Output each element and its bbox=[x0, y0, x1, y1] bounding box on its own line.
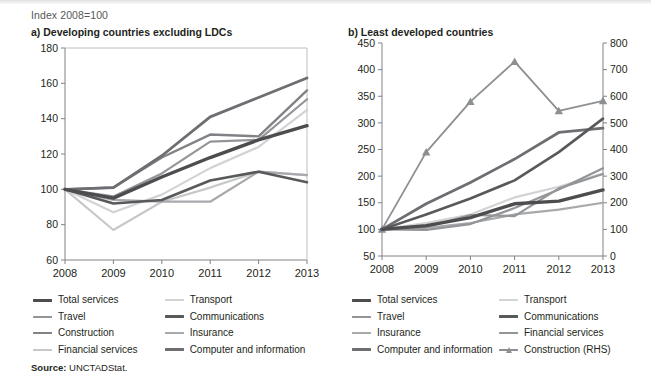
svg-text:200: 200 bbox=[357, 170, 375, 182]
svg-text:400: 400 bbox=[610, 143, 628, 155]
legend-label-transport: Transport bbox=[190, 294, 232, 306]
svg-text:2013: 2013 bbox=[591, 263, 615, 275]
legend-item-total_services[interactable]: Total services bbox=[33, 294, 165, 306]
legend-label-insurance: Insurance bbox=[377, 327, 421, 339]
source-value: UNCTADStat. bbox=[69, 362, 127, 373]
legend-swatch-travel-icon bbox=[352, 312, 371, 321]
legend-row: TravelCommunications bbox=[352, 309, 648, 326]
legend-label-construction_rhs: Construction (RHS) bbox=[524, 344, 611, 356]
svg-text:180: 180 bbox=[40, 42, 58, 54]
legend-label-travel: Travel bbox=[377, 311, 404, 323]
svg-text:2011: 2011 bbox=[503, 263, 527, 275]
legend-row: Total servicesTransport bbox=[33, 292, 323, 309]
svg-text:100: 100 bbox=[610, 223, 628, 235]
svg-text:400: 400 bbox=[357, 63, 375, 75]
legend-label-travel: Travel bbox=[58, 311, 85, 323]
legend-row: Total servicesTransport bbox=[352, 292, 648, 309]
legend-label-insurance: Insurance bbox=[190, 327, 234, 339]
legend-swatch-insurance-icon bbox=[352, 329, 371, 338]
legend-swatch-computer_and_information-icon bbox=[352, 345, 371, 354]
legend-swatch-transport-icon bbox=[165, 296, 184, 305]
legend-swatch-travel-icon bbox=[33, 312, 52, 321]
legend-item-construction_rhs[interactable]: Construction (RHS) bbox=[499, 344, 648, 356]
legend-row: TravelCommunications bbox=[33, 309, 323, 326]
legend-label-transport: Transport bbox=[524, 294, 566, 306]
svg-text:350: 350 bbox=[357, 90, 375, 102]
legend-swatch-total_services-icon bbox=[33, 296, 52, 305]
panel-b-legend: Total servicesTransportTravelCommunicati… bbox=[352, 292, 648, 358]
svg-text:200: 200 bbox=[610, 196, 628, 208]
svg-text:60: 60 bbox=[46, 254, 58, 266]
svg-text:50: 50 bbox=[363, 250, 375, 262]
svg-text:2012: 2012 bbox=[547, 263, 571, 275]
legend-row: ConstructionInsurance bbox=[33, 325, 323, 342]
svg-text:2010: 2010 bbox=[150, 267, 174, 279]
svg-text:800: 800 bbox=[610, 37, 628, 49]
legend-label-communications: Communications bbox=[524, 311, 598, 323]
svg-text:0: 0 bbox=[610, 250, 616, 262]
legend-item-communications[interactable]: Communications bbox=[499, 311, 648, 323]
legend-item-computer_and_information[interactable]: Computer and information bbox=[352, 344, 499, 356]
legend-swatch-financial_services-icon bbox=[33, 345, 52, 354]
panel-b-plot: 5010015020025030035040045001002003004005… bbox=[326, 0, 651, 285]
svg-text:150: 150 bbox=[357, 196, 375, 208]
legend-label-financial_services: Financial services bbox=[58, 344, 137, 356]
legend-item-computer_and_information[interactable]: Computer and information bbox=[165, 344, 323, 356]
legend-swatch-financial_services-icon bbox=[499, 329, 518, 338]
legend-item-travel[interactable]: Travel bbox=[352, 311, 499, 323]
legend-item-total_services[interactable]: Total services bbox=[352, 294, 499, 306]
legend-item-transport[interactable]: Transport bbox=[165, 294, 323, 306]
svg-text:2008: 2008 bbox=[53, 267, 77, 279]
svg-text:2009: 2009 bbox=[414, 263, 438, 275]
svg-text:100: 100 bbox=[40, 183, 58, 195]
svg-text:2010: 2010 bbox=[458, 263, 482, 275]
svg-text:120: 120 bbox=[40, 148, 58, 160]
svg-text:2012: 2012 bbox=[246, 267, 270, 279]
legend-swatch-computer_and_information-icon bbox=[165, 345, 184, 354]
legend-item-financial_services[interactable]: Financial services bbox=[499, 327, 648, 339]
svg-text:80: 80 bbox=[46, 218, 58, 230]
svg-text:100: 100 bbox=[357, 223, 375, 235]
legend-item-insurance[interactable]: Insurance bbox=[165, 327, 323, 339]
svg-text:2009: 2009 bbox=[101, 267, 125, 279]
panel-a-legend: Total servicesTransportTravelCommunicati… bbox=[33, 292, 323, 358]
legend-swatch-insurance-icon bbox=[165, 329, 184, 338]
legend-row: Computer and informationConstruction (RH… bbox=[352, 342, 648, 359]
legend-label-communications: Communications bbox=[190, 311, 264, 323]
chart-panel-b: b) Least developed countries 50100150200… bbox=[326, 0, 651, 381]
legend-item-financial_services[interactable]: Financial services bbox=[33, 344, 165, 356]
svg-text:250: 250 bbox=[357, 143, 375, 155]
source-label: Source: bbox=[31, 362, 66, 373]
svg-text:600: 600 bbox=[610, 90, 628, 102]
svg-text:140: 140 bbox=[40, 112, 58, 124]
legend-label-construction: Construction bbox=[58, 327, 114, 339]
legend-item-construction[interactable]: Construction bbox=[33, 327, 165, 339]
svg-text:2011: 2011 bbox=[198, 267, 222, 279]
legend-item-communications[interactable]: Communications bbox=[165, 311, 323, 323]
chart-panel-a: a) Developing countries excluding LDCs 6… bbox=[0, 0, 326, 381]
source-note: Source: UNCTADStat. bbox=[31, 362, 127, 373]
legend-label-financial_services: Financial services bbox=[524, 327, 603, 339]
legend-label-total_services: Total services bbox=[377, 294, 438, 306]
svg-text:160: 160 bbox=[40, 77, 58, 89]
legend-row: InsuranceFinancial services bbox=[352, 325, 648, 342]
legend-swatch-construction-icon bbox=[33, 329, 52, 338]
legend-label-computer_and_information: Computer and information bbox=[377, 344, 493, 356]
panel-a-plot: 6080100120140160180200820092010201120122… bbox=[0, 0, 326, 285]
legend-item-transport[interactable]: Transport bbox=[499, 294, 648, 306]
legend-label-total_services: Total services bbox=[58, 294, 119, 306]
svg-text:700: 700 bbox=[610, 63, 628, 75]
svg-text:300: 300 bbox=[357, 117, 375, 129]
legend-swatch-communications-icon bbox=[499, 312, 518, 321]
legend-swatch-communications-icon bbox=[165, 312, 184, 321]
svg-text:300: 300 bbox=[610, 170, 628, 182]
legend-item-insurance[interactable]: Insurance bbox=[352, 327, 499, 339]
legend-swatch-construction_rhs-icon bbox=[499, 345, 518, 354]
svg-text:2013: 2013 bbox=[295, 267, 319, 279]
legend-item-travel[interactable]: Travel bbox=[33, 311, 165, 323]
svg-text:450: 450 bbox=[357, 37, 375, 49]
legend-swatch-transport-icon bbox=[499, 296, 518, 305]
legend-row: Financial servicesComputer and informati… bbox=[33, 342, 323, 359]
svg-text:2008: 2008 bbox=[370, 263, 394, 275]
legend-swatch-total_services-icon bbox=[352, 296, 371, 305]
